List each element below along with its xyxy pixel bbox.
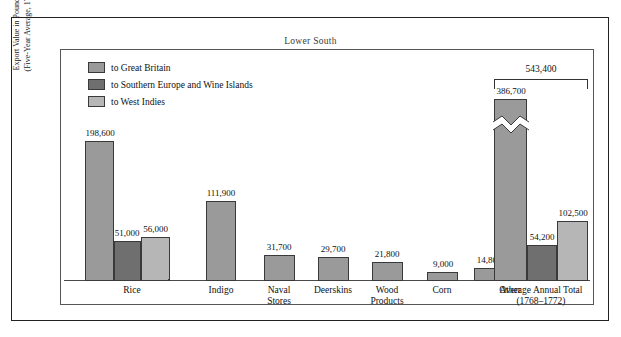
bar-other-southern-europe xyxy=(505,277,517,281)
bar-total-great-britain xyxy=(168,279,170,281)
bar-rice-southern-europe xyxy=(114,241,141,281)
y-axis-title-line-2: (Five-Year Average, 1768–1772) xyxy=(23,0,34,104)
bar-rice-west-indies xyxy=(141,237,170,281)
bar-value-deerskins: 29,700 xyxy=(304,244,362,254)
bar-other-west-indies xyxy=(517,268,546,281)
figure-root: Lower South Export Value in Pounds Sterl… xyxy=(0,0,621,337)
y-axis-title-line-1: Export Value in Pounds Sterling xyxy=(12,0,23,104)
bar-rice-great-britain xyxy=(85,141,114,281)
bar-value-rice-west-indies: 56,000 xyxy=(127,224,184,234)
bar-naval-stores-great-britain xyxy=(264,255,295,281)
chart-title: Lower South xyxy=(0,36,621,46)
bar-deerskins-great-britain xyxy=(318,257,349,281)
cat-label-average-total-line-2: (1768–1772) xyxy=(466,296,616,307)
cat-label-average-total-line-1: Average Annual Total xyxy=(466,285,616,296)
bar-value-other-west-indies: 15,700 xyxy=(504,255,562,265)
bar-value-wood-products: 21,800 xyxy=(358,249,416,259)
bar-value-indigo-great-britain: 111,900 xyxy=(191,188,251,198)
y-axis-title: Export Value in Pounds Sterling (Five-Ye… xyxy=(12,0,33,104)
plot-area: 198,600 51,000 56,000 111,900 31,700 29,… xyxy=(61,50,593,304)
cat-label-average-total: Average Annual Total (1768–1772) xyxy=(466,285,616,307)
bar-indigo-great-britain xyxy=(206,201,236,281)
bar-corn-great-britain xyxy=(427,272,458,281)
bar-wood-products-great-britain xyxy=(372,262,403,281)
bar-value-rice-great-britain: 198,600 xyxy=(71,128,129,138)
bar-value-naval-stores: 31,700 xyxy=(250,242,308,252)
